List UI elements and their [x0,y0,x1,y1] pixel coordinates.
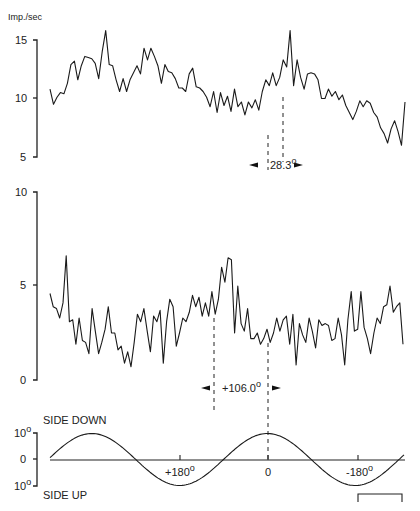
top-y-tick-10-label: 10 [15,92,27,104]
phase-label-top: 28.3o [270,156,296,171]
bottom-y-tick-0-label: 0 [20,453,26,465]
bottom-y-tick-top-label: 10o [14,424,31,439]
middle-firing-trace [50,256,403,367]
figure: Imp./sec 15 10 5 28.3o 10 5 0 +106.0o SI… [0,0,420,511]
x-label-zero: 0 [265,466,271,478]
phase-label-middle: +106.0o [222,379,261,394]
x-label-minus180: -180o [346,463,373,478]
y-unit-label: Imp./sec [8,12,43,22]
scale-bar [358,494,402,502]
arrow-right-icon [201,386,210,391]
arrow-left-icon [272,386,281,391]
bottom-y-tick-bottom-label: 10o [14,477,31,492]
side-up-label: SIDE UP [43,489,87,501]
mid-y-tick-0-label: 0 [20,374,26,386]
arrow-right-icon [249,163,258,168]
side-down-label: SIDE DOWN [43,414,107,426]
mid-y-tick-5-label: 5 [20,279,26,291]
mid-y-axis [33,192,37,380]
x-label-plus180: +180o [165,463,195,478]
mid-y-tick-10-label: 10 [15,186,27,198]
top-y-tick-5-label: 5 [20,151,26,163]
top-firing-trace [50,31,405,146]
top-y-tick-15-label: 15 [15,34,27,46]
